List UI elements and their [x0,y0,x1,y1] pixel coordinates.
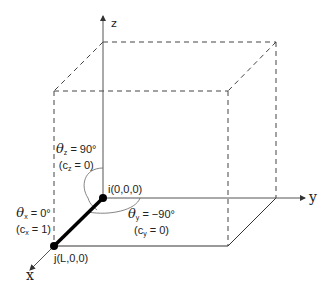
cx-value: = 1) [29,223,51,235]
node-j [50,242,58,250]
direction-cosine-diagram: z y x i(0,0,0) j(L,0,0) θz = 90° (cz = 0… [0,0,330,290]
theta-y-annotation: θy = −90° (cy = 0) [128,207,175,240]
theta-symbol: θ [16,205,24,220]
z-axis-label: z [111,18,117,29]
cos-prefix: (c [59,159,68,171]
theta-symbol: θ [56,141,64,156]
cz-value: = 0) [71,159,93,171]
theta-x-value: = 0° [28,207,51,219]
node-i [99,194,107,202]
box-and-axes [0,0,330,290]
theta-x-annotation: θx = 0° (cx = 1) [16,206,51,239]
theta-z-value: = 90° [67,143,96,155]
x-axis-label: x [26,268,34,282]
theta-y-value: = −90° [139,208,175,220]
theta-symbol: θ [128,206,136,221]
y-axis-label: y [309,190,317,204]
cos-prefix: (c [134,224,143,236]
member-ij [54,198,103,246]
point-i-label: i(0,0,0) [108,184,142,195]
theta-z-annotation: θz = 90° (cz = 0) [56,142,97,175]
cos-prefix: (c [16,223,25,235]
point-j-label: j(L,0,0) [54,253,88,264]
cy-value: = 0) [147,224,169,236]
